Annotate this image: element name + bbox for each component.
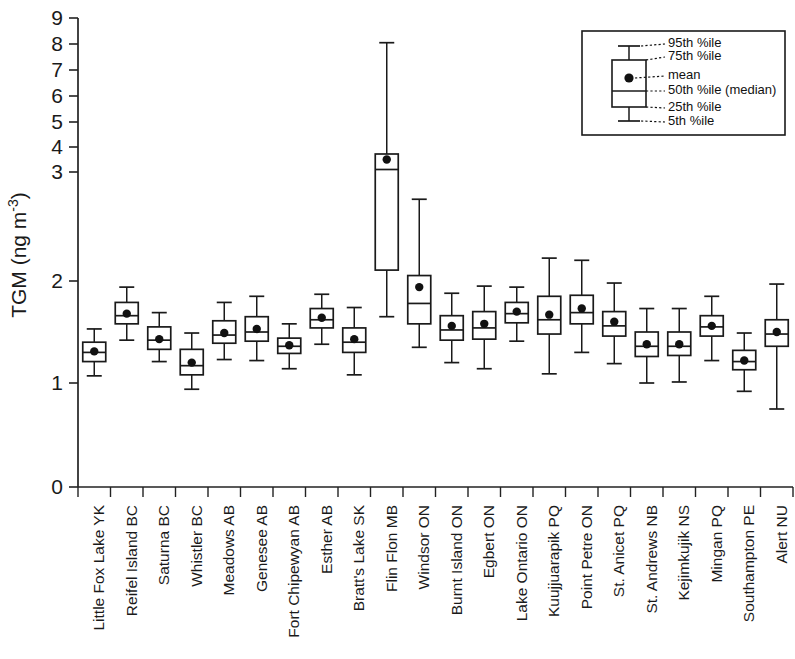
x-axis-tick-label: Flin Flon MB bbox=[383, 505, 400, 592]
x-axis-tick-label: Bratt's Lake SK bbox=[350, 504, 367, 611]
x-axis-tick-label: Reifel Island BC bbox=[123, 505, 140, 616]
mean-marker bbox=[773, 328, 781, 336]
x-axis-tick-label: Southampton PE bbox=[740, 505, 757, 622]
box-iqr bbox=[408, 276, 431, 324]
x-axis-tick-label: Mingan PQ bbox=[708, 505, 725, 583]
legend-label-median: 50th %ile (median) bbox=[668, 82, 776, 97]
mean-marker bbox=[253, 325, 261, 333]
legend-mean-marker bbox=[624, 73, 633, 82]
mean-marker bbox=[643, 340, 651, 348]
mean-marker bbox=[90, 347, 98, 355]
x-axis-tick-label: Windsor ON bbox=[415, 505, 432, 589]
x-axis-tick-label: Kuujjuarapik PQ bbox=[545, 505, 562, 617]
mean-marker bbox=[610, 318, 618, 326]
mean-marker bbox=[350, 335, 358, 343]
x-axis-tick-label: St. Anicet PQ bbox=[610, 505, 627, 597]
x-axis-tick-label: Burnt Island ON bbox=[448, 505, 465, 615]
y-axis-label-exponent: -3 bbox=[5, 199, 21, 212]
mean-marker bbox=[708, 322, 716, 330]
legend-label-p75: 75th %ile bbox=[668, 48, 721, 63]
x-axis-tick-label: Alert NU bbox=[773, 505, 790, 564]
x-axis-tick-label: Point Petre ON bbox=[578, 505, 595, 609]
x-axis-tick-label: Meadows AB bbox=[220, 505, 237, 595]
mean-marker bbox=[318, 314, 326, 322]
legend-label-p5: 5th %ile bbox=[668, 113, 714, 128]
mean-marker bbox=[480, 320, 488, 328]
y-axis-tick-label: 8 bbox=[51, 32, 63, 55]
mean-marker bbox=[740, 356, 748, 364]
y-axis-tick-label: 1 bbox=[51, 371, 63, 394]
mean-marker bbox=[220, 329, 228, 337]
y-axis-label-close: ) bbox=[7, 192, 30, 199]
mean-marker bbox=[415, 283, 423, 291]
mean-marker bbox=[285, 341, 293, 349]
y-axis-tick-label: 2 bbox=[51, 269, 63, 292]
y-axis-tick-label: 6 bbox=[51, 84, 63, 107]
legend-box-iqr bbox=[612, 60, 646, 107]
x-axis-tick-label: Kejimkujik NS bbox=[675, 505, 692, 601]
x-axis-tick-label: Little Fox Lake YK bbox=[90, 504, 107, 630]
box-plot-figure: TGM (ng m-3) 0123456789 Little Fox Lake … bbox=[0, 0, 795, 659]
mean-marker bbox=[155, 335, 163, 343]
x-axis-tick-label: Egbert ON bbox=[480, 505, 497, 578]
x-axis-tick-label: St. Andrews NB bbox=[643, 505, 660, 614]
y-axis-tick-label: 5 bbox=[51, 110, 63, 133]
y-axis-tick-label: 0 bbox=[51, 475, 63, 498]
mean-marker bbox=[123, 309, 131, 317]
mean-marker bbox=[188, 358, 196, 366]
tgm-box-plot-chart: TGM (ng m-3) 0123456789 Little Fox Lake … bbox=[0, 0, 795, 659]
x-axis-tick-label: Fort Chipewyan AB bbox=[285, 505, 302, 638]
mean-marker bbox=[513, 307, 521, 315]
y-axis-label-base: TGM (ng m bbox=[7, 212, 30, 318]
x-axis-tick-label: Whistler BC bbox=[188, 505, 205, 587]
mean-marker bbox=[448, 322, 456, 330]
x-axis-tick-label: Esther AB bbox=[318, 505, 335, 574]
x-axis-tick-label: Genesee AB bbox=[253, 505, 270, 592]
y-axis-tick-label: 7 bbox=[51, 58, 63, 81]
y-axis-tick-label: 4 bbox=[51, 135, 63, 158]
y-axis-tick-label: 3 bbox=[51, 160, 63, 183]
mean-marker bbox=[383, 155, 391, 163]
x-axis-tick-label: Saturna BC bbox=[155, 505, 172, 585]
mean-marker bbox=[545, 310, 553, 318]
legend-label-mean: mean bbox=[668, 67, 701, 82]
mean-marker bbox=[675, 340, 683, 348]
y-axis-tick-label: 9 bbox=[51, 6, 63, 29]
legend-label-p25: 25th %ile bbox=[668, 99, 721, 114]
x-axis-tick-label: Lake Ontario ON bbox=[513, 505, 530, 621]
chart-legend: 95th %ile75th %ilemean50th %ile (median)… bbox=[582, 31, 785, 135]
box-iqr bbox=[375, 154, 398, 270]
mean-marker bbox=[578, 304, 586, 312]
